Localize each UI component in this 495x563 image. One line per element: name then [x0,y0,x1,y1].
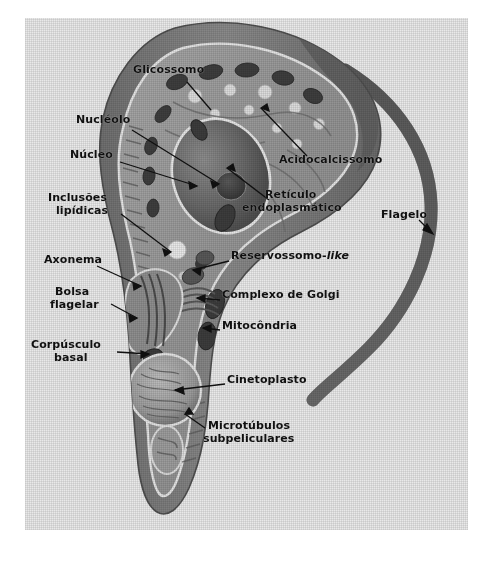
label-cinetoplasto: Cinetoplasto [227,374,307,387]
label-subpeliculares: subpeliculares [203,433,295,446]
label-mitocondria: Mitocôndria [222,320,297,333]
label-microtubulos: Microtúbulos [208,420,290,433]
cell-illustration [25,18,468,530]
label-golgi: Complexo de Golgi [222,289,340,302]
figure-panel: Glicossomo Nucléolo Núcleo Inclusões lip… [0,0,495,563]
label-flagelo: Flagelo [381,209,427,222]
label-basal: basal [54,352,88,365]
kinetoplast [129,354,201,426]
diagram-plate: Glicossomo Nucléolo Núcleo Inclusões lip… [25,18,468,530]
label-reservossomo: Reservossomo-like [231,250,349,263]
label-bolsa: Bolsa [55,286,89,299]
label-reservossomo-italic: like [327,249,349,262]
nucleolus [216,172,246,200]
label-acidocalcissomo: Acidocalcissomo [279,154,382,167]
label-endoplasmatico: endoplasmático [242,202,342,215]
posterior-inclusions [151,426,183,474]
label-lipidicas: lipídicas [56,205,108,218]
label-reservossomo-main: Reservossomo- [231,249,327,262]
label-glicossomo: Glicossomo [133,64,204,77]
label-flagelar: flagelar [50,299,99,312]
label-axonema: Axonema [44,254,102,267]
label-nucleo: Núcleo [70,149,113,162]
label-reticulo: Retículo [265,189,316,202]
label-corpusculo: Corpúsculo [31,339,101,352]
label-inclusoes: Inclusões [48,192,107,205]
label-nucleolo: Nucléolo [76,114,130,127]
